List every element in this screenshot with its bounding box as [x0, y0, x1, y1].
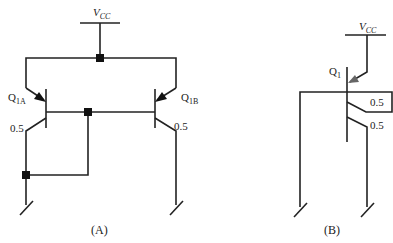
junction-dot: [84, 108, 92, 116]
collector-left: [26, 118, 46, 205]
ratio-right-label: 0.5: [174, 121, 188, 132]
ratio-left-label: 0.5: [10, 123, 24, 134]
junction-dot: [96, 54, 104, 62]
vcc-label-b: VCC: [359, 21, 376, 35]
circuit-schematic: [0, 0, 393, 243]
emitter-arrow-b-icon: [348, 75, 359, 83]
collector-right: [155, 118, 176, 205]
caption-a: (A): [91, 224, 108, 236]
ratio-lower-label: 0.5: [370, 120, 384, 131]
emitter-arrow-right-icon: [155, 92, 167, 102]
top-rail-a: [26, 58, 176, 88]
q1b-label: Q1B: [181, 92, 198, 106]
q1-label: Q1: [329, 66, 341, 80]
q1a-label: Q1A: [8, 92, 26, 106]
emitter-arrow-left-icon: [34, 92, 46, 102]
emitter-b: [350, 35, 367, 82]
collector-lower-b: [347, 117, 367, 207]
base-line-b: [300, 92, 392, 207]
junction-dot: [22, 171, 30, 179]
vcc-label-a: VCC: [93, 7, 110, 21]
caption-b: (B): [324, 224, 340, 236]
feedback-line-a: [26, 112, 88, 175]
ratio-upper-label: 0.5: [370, 97, 384, 108]
